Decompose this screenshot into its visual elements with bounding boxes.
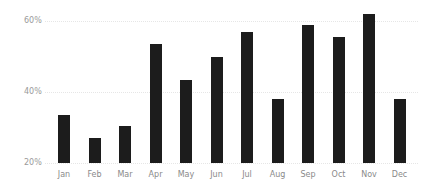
x-tick-label: Jul bbox=[232, 170, 262, 179]
bar-may bbox=[180, 80, 192, 163]
bar-jan bbox=[58, 115, 70, 163]
x-tick-label: Oct bbox=[324, 170, 354, 179]
x-tick-label: Nov bbox=[354, 170, 384, 179]
bar-feb bbox=[89, 138, 101, 163]
bar-aug bbox=[272, 99, 284, 163]
x-tick-label: Jun bbox=[202, 170, 232, 179]
bar-dec bbox=[394, 99, 406, 163]
x-tick-label: May bbox=[171, 170, 201, 179]
bar-mar bbox=[119, 126, 131, 163]
x-tick-label: Mar bbox=[110, 170, 140, 179]
x-tick-label: Apr bbox=[141, 170, 171, 179]
bar-sep bbox=[302, 25, 314, 163]
bar-apr bbox=[150, 44, 162, 163]
bar-jul bbox=[241, 32, 253, 163]
x-tick-label: Dec bbox=[385, 170, 415, 179]
x-tick-label: Aug bbox=[263, 170, 293, 179]
y-tick-label: 60% bbox=[24, 16, 42, 25]
bar-chart: 20%40%60% JanFebMarAprMayJunJulAugSepOct… bbox=[0, 0, 434, 195]
x-tick-label: Feb bbox=[80, 170, 110, 179]
bar-oct bbox=[333, 37, 345, 163]
bar-nov bbox=[363, 14, 375, 163]
y-tick-label: 40% bbox=[24, 87, 42, 96]
y-tick-label: 20% bbox=[24, 158, 42, 167]
x-tick-label: Sep bbox=[293, 170, 323, 179]
gridline bbox=[45, 163, 418, 164]
bar-jun bbox=[211, 57, 223, 164]
x-tick-label: Jan bbox=[49, 170, 79, 179]
